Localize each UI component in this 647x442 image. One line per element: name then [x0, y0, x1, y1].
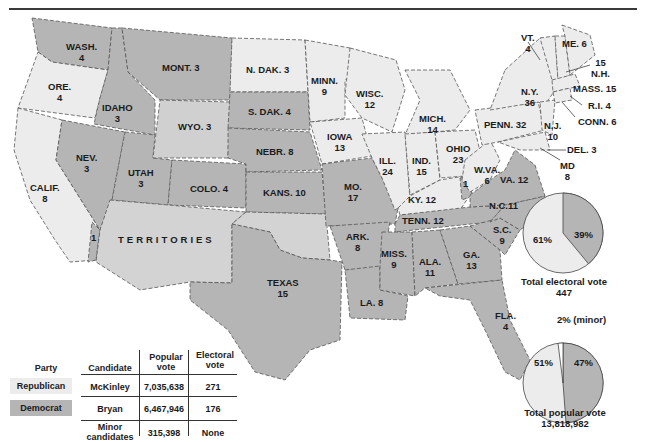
- popular-minor: 315,398: [139, 428, 189, 438]
- label-ore: ORE.4: [48, 81, 71, 103]
- pie-popular-rep-label: 51%: [534, 357, 553, 368]
- label-calif-split: 1: [91, 232, 96, 243]
- label-mass: MASS. 15: [573, 83, 616, 94]
- pie-electoral-caption: Total electoral vote447: [508, 276, 620, 298]
- candidate-mckinley: McKinley: [81, 382, 139, 392]
- label-ny: N.Y.36: [521, 86, 538, 108]
- label-penn: PENN. 32: [484, 119, 526, 130]
- label-mich: MICH.14: [419, 113, 446, 135]
- label-vt: VT.4: [521, 32, 535, 54]
- party-democrat: Democrat: [10, 400, 72, 416]
- pie-electoral-rep-label: 61%: [533, 234, 552, 245]
- label-wyo: WYO. 3: [178, 121, 211, 132]
- party-republican: Republican: [10, 378, 72, 394]
- label-fla: FLA.4: [495, 310, 516, 332]
- label-nh: 15N.H.: [591, 57, 610, 79]
- label-ind: IND.15: [412, 155, 431, 177]
- pie-popular-caption: Total popular vote13,818,982: [507, 407, 623, 429]
- label-va: VA. 12: [500, 174, 528, 185]
- label-ky-split: 1: [463, 178, 468, 189]
- label-ark: ARK.8: [346, 231, 369, 253]
- header-popular: Popularvote: [140, 352, 192, 372]
- label-ndak: N. DAK. 3: [246, 64, 289, 75]
- label-nj: N.J.10: [544, 120, 561, 142]
- pie-popular-dem-label: 47%: [574, 357, 593, 368]
- label-wash: WASH.4: [66, 41, 97, 63]
- label-idaho: IDAHO3: [102, 102, 133, 124]
- label-iowa: IOWA13: [327, 131, 352, 153]
- results-table: Party Candidate Popularvote Electoralvot…: [5, 340, 245, 435]
- label-miss: MISS.9: [381, 248, 407, 270]
- label-ky: KY. 12: [408, 194, 436, 205]
- label-territories: TERRITORIES: [118, 234, 215, 245]
- header-candidate: Candidate: [80, 363, 140, 373]
- label-conn: CONN. 6: [578, 116, 617, 127]
- label-wva: W.VA.6: [474, 164, 500, 186]
- label-ala: ALA.11: [419, 256, 441, 278]
- label-calif: CALIF.8: [30, 182, 60, 204]
- label-nebr: NEBR. 8: [256, 146, 294, 157]
- label-md: MD8: [560, 160, 575, 182]
- label-me: ME. 6: [562, 38, 587, 49]
- label-sc: S.C.9: [493, 224, 511, 246]
- pie-popular-minor-label: 2% (minor): [557, 314, 606, 325]
- label-nc: N.C.11: [489, 200, 518, 211]
- label-utah: UTAH3: [128, 167, 154, 189]
- popular-bryan: 6,467,946: [139, 404, 189, 414]
- label-nev: NEV.3: [76, 152, 97, 174]
- label-ri: R.I. 4: [588, 100, 611, 111]
- candidate-minor: Minorcandidates: [81, 422, 139, 442]
- territories: [96, 200, 246, 290]
- label-minn: MINN.9: [311, 75, 338, 97]
- label-kans: KANS. 10: [263, 187, 306, 198]
- electoral-minor: None: [189, 428, 237, 438]
- electoral-mckinley: 271: [189, 382, 237, 392]
- label-ill: ILL.24: [379, 155, 396, 177]
- label-la: LA. 8: [360, 297, 383, 308]
- header-electoral: Electoralvote: [191, 350, 239, 370]
- pie-electoral-dem-label: 39%: [574, 229, 593, 240]
- label-del: DEL. 3: [567, 144, 597, 155]
- header-party: Party: [21, 363, 71, 373]
- label-wisc: WISC.12: [356, 88, 383, 110]
- label-sdak: S. DAK. 4: [248, 106, 291, 117]
- label-tenn: TENN. 12: [402, 215, 444, 226]
- label-texas: TEXAS15: [267, 277, 299, 299]
- electoral-bryan: 176: [189, 404, 237, 414]
- label-ohio: OHIO23: [446, 143, 470, 165]
- label-colo: COLO. 4: [190, 183, 228, 194]
- candidate-bryan: Bryan: [81, 404, 139, 414]
- label-ga: GA.13: [463, 249, 480, 271]
- popular-mckinley: 7,035,638: [139, 382, 189, 392]
- label-mont: MONT. 3: [162, 62, 200, 73]
- label-mo: MO.17: [344, 181, 362, 203]
